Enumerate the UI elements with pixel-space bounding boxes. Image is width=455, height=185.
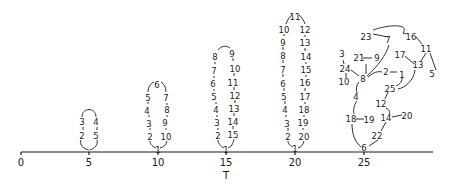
- node-label: 22: [372, 131, 383, 141]
- node-label: 3: [79, 117, 84, 127]
- node-label: 3: [339, 49, 344, 59]
- node-label: 24: [340, 64, 351, 74]
- axis-ticks: 0510152025: [18, 152, 371, 168]
- loop-t20: 1234567891011121314151617181920: [279, 12, 312, 154]
- node-label: 9: [280, 38, 285, 48]
- node-label: 5: [211, 92, 216, 102]
- node-label: 6: [210, 79, 215, 89]
- node-label: 8: [280, 51, 285, 61]
- node-label: 12: [300, 25, 311, 35]
- node-label: 14: [228, 117, 239, 127]
- node-label: 16: [406, 32, 417, 42]
- node-label: 4: [93, 117, 98, 127]
- node-label: 9: [162, 118, 167, 128]
- node-label: 19: [364, 115, 375, 125]
- node-label: 19: [298, 118, 309, 128]
- loops: 2345123456789101234567891011121314151234…: [79, 12, 311, 155]
- node-label: 4: [144, 106, 149, 116]
- node-label: 8: [212, 52, 217, 62]
- node-label: 18: [299, 105, 310, 115]
- node-label: 5: [429, 69, 434, 79]
- node-label: 7: [211, 66, 216, 76]
- node-label: 2: [79, 131, 84, 141]
- node-label: 2: [215, 131, 220, 141]
- node-label: 15: [228, 130, 239, 140]
- axis-tick-label: 20: [289, 157, 302, 168]
- node-label: 14: [381, 113, 392, 123]
- loop-t10: 12345678910: [144, 80, 171, 155]
- node-label: 4: [353, 92, 358, 102]
- axis-tick-label: 5: [86, 157, 92, 168]
- axis-tick-label: 0: [18, 157, 24, 168]
- node-label: 6: [280, 79, 285, 89]
- node-label: 11: [421, 44, 432, 54]
- node-label: 20: [402, 111, 413, 121]
- transition-arrows: [81, 110, 98, 151]
- node-label: 13: [413, 60, 424, 70]
- node-label: 3: [146, 119, 151, 129]
- node-label: 5: [145, 93, 150, 103]
- node-label: 7: [163, 93, 168, 103]
- node-label: 1: [223, 145, 228, 155]
- node-label: 15: [301, 65, 312, 75]
- node-label: 2: [147, 132, 152, 142]
- node-label: 7: [385, 35, 390, 45]
- node-label: 21: [354, 53, 365, 63]
- node-label: 10: [230, 64, 241, 74]
- node-label: 6: [361, 143, 366, 153]
- node-label: 20: [299, 132, 310, 142]
- node-label: 1: [399, 70, 404, 80]
- node-label: 3: [214, 118, 219, 128]
- node-label: 7: [280, 65, 285, 75]
- node-label: 13: [300, 38, 311, 48]
- cluster-t25-graph: 237161132191713248215102541218191420226: [339, 26, 436, 153]
- node-label: 8: [360, 74, 365, 84]
- node-label: 12: [376, 99, 387, 109]
- node-label: 2: [383, 67, 388, 77]
- node-label: 11: [228, 78, 239, 88]
- node-label: 14: [301, 52, 312, 62]
- node-label: 4: [213, 105, 218, 115]
- cluster-t25: 237161132191713248215102541218191420226: [339, 26, 436, 153]
- node-label: 10: [339, 77, 350, 87]
- node-label: 23: [361, 32, 372, 42]
- node-label: 16: [300, 78, 311, 88]
- node-label: 1: [292, 144, 297, 154]
- node-label: 4: [282, 105, 287, 115]
- axis-label: T: [222, 170, 230, 181]
- trajectory-diagram: 0510152025 T 234512345678910123456789101…: [0, 0, 455, 185]
- node-label: 8: [164, 105, 169, 115]
- node-label: 17: [300, 92, 311, 102]
- node-label: 12: [230, 91, 241, 101]
- node-label: 5: [281, 92, 286, 102]
- node-label: 1: [155, 145, 160, 155]
- node-label: 25: [385, 84, 396, 94]
- axis-tick-label: 10: [152, 157, 165, 168]
- loop-t15: 123456789101112131415: [210, 46, 240, 155]
- node-label: 9: [374, 53, 379, 63]
- node-label: 10: [161, 132, 172, 142]
- node-label: 18: [346, 114, 357, 124]
- loop-t5: 2345: [79, 110, 98, 151]
- axis-tick-label: 15: [220, 157, 233, 168]
- node-label: 13: [229, 104, 240, 114]
- node-label: 11: [290, 12, 301, 22]
- node-label: 3: [284, 119, 289, 129]
- node-label: 2: [285, 132, 290, 142]
- node-label: 17: [395, 50, 406, 60]
- node-label: 10: [279, 25, 290, 35]
- node-label: 9: [229, 49, 234, 59]
- node-label: 6: [154, 80, 159, 90]
- node-label: 5: [93, 131, 98, 141]
- axis-tick-label: 25: [358, 157, 371, 168]
